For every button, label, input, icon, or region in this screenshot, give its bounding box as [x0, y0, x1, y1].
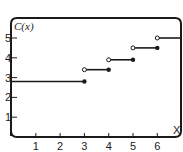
open-endpoint — [82, 68, 86, 72]
open-endpoint — [107, 58, 111, 62]
x-tick-label: 5 — [130, 140, 136, 152]
y-tick-label: 1 — [5, 111, 11, 123]
y-tick-label: 4 — [5, 52, 11, 64]
x-tick-label: 6 — [154, 140, 160, 152]
open-endpoint — [155, 36, 159, 40]
y-axis-title: C(x) — [14, 20, 34, 33]
x-tick-label: 4 — [106, 140, 112, 152]
chart-frame — [11, 18, 181, 137]
closed-endpoint — [82, 79, 86, 83]
y-tick-label: 3 — [5, 72, 11, 84]
x-tick-label: 3 — [81, 140, 87, 152]
y-tick-label: 2 — [5, 91, 11, 103]
axis-ticks: 12345612345 — [5, 32, 160, 152]
step-chart: 12345612345 C(x) X — [0, 0, 183, 152]
closed-endpoint — [155, 46, 159, 50]
y-tick-label: 5 — [5, 32, 11, 44]
closed-endpoint — [107, 67, 111, 71]
x-tick-label: 2 — [57, 140, 63, 152]
x-tick-label: 1 — [33, 140, 39, 152]
closed-endpoint — [131, 58, 135, 62]
step-series — [12, 36, 182, 84]
x-axis-title: X — [173, 124, 181, 136]
open-endpoint — [131, 46, 135, 50]
